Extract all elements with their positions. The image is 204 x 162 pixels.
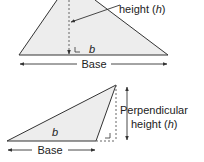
right-angle-mark — [105, 133, 110, 138]
triangle-area-diagram: height (h) b Base Perpendicular height (… — [0, 0, 204, 162]
base-variable-b: b — [52, 126, 58, 138]
base-label: Base — [81, 58, 106, 70]
height-label: height (h) — [131, 118, 178, 130]
perpendicular-label: Perpendicular — [120, 104, 188, 116]
base-label: Base — [37, 144, 62, 156]
height-label: height (h) — [119, 3, 166, 15]
bottom-triangle: Perpendicular height (h) b Base — [7, 85, 188, 156]
top-triangle: height (h) b Base — [19, 0, 168, 70]
base-variable-b: b — [89, 43, 95, 55]
